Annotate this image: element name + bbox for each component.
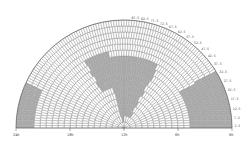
- coverage-cell: [125, 26, 128, 32]
- declination-label: 7.5: [234, 116, 240, 120]
- declination-label: 22.5: [228, 88, 236, 92]
- coverage-cell: [226, 123, 232, 126]
- coverage-cell: [220, 125, 226, 128]
- coverage-cell: [121, 98, 124, 104]
- coverage-cell: [46, 125, 52, 128]
- coverage-cell: [172, 125, 178, 128]
- coverage-cell: [116, 20, 119, 26]
- declination-label: 12.5: [233, 107, 241, 111]
- coverage-cell: [125, 38, 128, 44]
- coverage-cell: [154, 125, 160, 128]
- coverage-cell: [123, 92, 126, 98]
- coverage-cell: [119, 68, 122, 74]
- coverage-cell: [196, 125, 202, 128]
- declination-label: 42.5: [208, 54, 216, 58]
- coverage-cell: [58, 125, 64, 128]
- declination-label: 47.5: [201, 47, 209, 51]
- coverage-cell: [119, 50, 122, 56]
- hour-axis-label: 18h: [67, 133, 74, 137]
- declination-label: 67.5: [169, 25, 177, 29]
- declination-label: 77.5: [151, 19, 159, 23]
- declination-label: 72.5: [160, 22, 168, 26]
- coverage-cell: [120, 26, 123, 32]
- coverage-cell: [190, 125, 196, 128]
- coverage-cell: [120, 44, 123, 50]
- coverage-cell: [160, 125, 166, 128]
- coverage-cell: [214, 123, 220, 126]
- coverage-cell: [123, 44, 126, 50]
- declination-label: 27.5: [224, 79, 232, 83]
- declination-label: 17.5: [231, 97, 239, 101]
- declination-label: 87.5: [131, 16, 139, 20]
- declination-label: 57.5: [186, 35, 194, 39]
- coverage-cell: [123, 74, 126, 80]
- coverage-cell: [120, 92, 123, 98]
- coverage-cell: [208, 123, 214, 126]
- coverage-cell: [119, 32, 122, 38]
- coverage-cell: [120, 38, 123, 44]
- coverage-cell: [124, 62, 127, 68]
- coverage-cell: [172, 123, 178, 126]
- declination-label: 82.5: [141, 17, 149, 21]
- coverage-cell: [120, 74, 123, 80]
- coverage-cell: [124, 32, 127, 38]
- coverage-cell: [202, 125, 208, 128]
- coverage-cell: [148, 125, 154, 128]
- coverage-cell: [52, 125, 58, 128]
- coverage-cell: [178, 125, 184, 128]
- coverage-cell: [123, 26, 126, 32]
- hour-axis-label: 0h: [229, 133, 233, 137]
- coverage-cell: [123, 56, 126, 62]
- coverage-cell: [226, 120, 232, 123]
- coverage-cell: [214, 125, 220, 128]
- declination-label: 52.5: [194, 41, 202, 45]
- declination-label: 62.5: [178, 30, 186, 34]
- coverage-cell: [22, 125, 28, 128]
- coverage-cell: [28, 125, 34, 128]
- coverage-cell: [121, 80, 124, 86]
- coverage-cell: [121, 68, 124, 74]
- coverage-cell: [117, 44, 120, 50]
- declination-label: 2.5: [234, 124, 240, 128]
- coverage-cell: [124, 20, 127, 26]
- coverage-cell: [202, 123, 208, 126]
- hour-axis-label: 6h: [175, 133, 179, 137]
- hour-axis-label: 24h: [13, 133, 20, 137]
- coverage-cell: [124, 50, 127, 56]
- sky-coverage-diagram: 87.582.577.572.567.562.557.552.547.542.5…: [0, 0, 252, 155]
- coverage-cell: [16, 125, 22, 128]
- declination-label: 32.5: [219, 70, 227, 74]
- coverage-cell: [121, 20, 124, 26]
- hour-axis-label: 12h: [121, 133, 128, 137]
- coverage-cell: [117, 26, 120, 32]
- coverage-cell: [119, 62, 122, 68]
- coverage-cell: [120, 56, 123, 62]
- coverage-cell: [178, 123, 184, 126]
- coverage-cell: [123, 86, 126, 92]
- coverage-cell: [208, 125, 214, 128]
- coverage-cell: [120, 86, 123, 92]
- coverage-cell: [119, 20, 122, 26]
- coverage-cell: [40, 125, 46, 128]
- coverage-cell: [196, 123, 202, 126]
- coverage-cell: [34, 125, 40, 128]
- coverage-cell: [220, 123, 226, 126]
- coverage-cell: [121, 62, 124, 68]
- polar-coverage-plot: 87.582.577.572.567.562.557.552.547.542.5…: [0, 0, 252, 155]
- declination-label: 37.5: [214, 62, 222, 66]
- coverage-cell: [121, 32, 124, 38]
- coverage-cell: [184, 123, 190, 126]
- coverage-cell: [142, 125, 148, 128]
- coverage-cell: [118, 38, 121, 44]
- coverage-cells: [16, 20, 232, 128]
- coverage-cell: [226, 125, 232, 128]
- coverage-cell: [166, 125, 172, 128]
- coverage-cell: [123, 38, 126, 44]
- coverage-cell: [121, 50, 124, 56]
- coverage-cell: [220, 120, 226, 123]
- coverage-cell: [184, 125, 190, 128]
- coverage-cell: [190, 123, 196, 126]
